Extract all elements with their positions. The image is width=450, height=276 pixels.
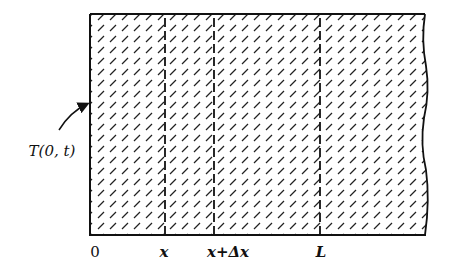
label-L: L: [315, 243, 327, 261]
rod-diagram: T(0, t) 0 x x+Δx L: [0, 0, 450, 276]
label-x: x: [159, 243, 170, 261]
boundary-arrow-icon: [59, 104, 87, 130]
boundary-label: T(0, t): [29, 142, 76, 160]
label-x-plus-dx: x+Δx: [206, 243, 250, 261]
label-origin: 0: [90, 243, 100, 261]
rod-body: [90, 14, 428, 235]
